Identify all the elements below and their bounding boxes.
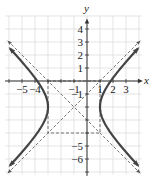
x-tick-label: 2 [110, 83, 116, 95]
y-tick-label: −6 [71, 153, 83, 165]
y-tick-label: 1 [78, 62, 84, 74]
y-tick-label: 4 [78, 23, 84, 35]
hyperbola-graph: −5−4−11234321−1−5−6 x y [0, 0, 151, 184]
x-tick-label: −5 [16, 83, 28, 95]
y-arrow-icon [85, 19, 89, 24]
x-tick-label: −4 [29, 83, 41, 95]
x-axis-label: x [143, 74, 149, 86]
x-arrow-icon [138, 79, 143, 83]
x-tick-label: 1 [97, 83, 103, 95]
tick-labels: −5−4−11234321−1−5−6 [16, 23, 129, 165]
y-tick-label: 2 [78, 49, 84, 61]
x-tick-label: 3 [123, 83, 129, 95]
y-tick-label: −5 [71, 140, 83, 152]
y-axis-label: y [83, 2, 89, 14]
y-tick-label: 3 [78, 36, 84, 48]
y-tick-label: −1 [71, 88, 83, 100]
